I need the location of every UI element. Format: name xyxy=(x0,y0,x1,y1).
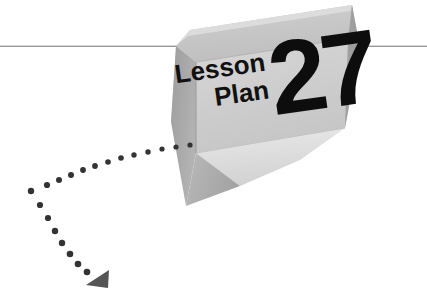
trail-dot xyxy=(187,142,192,147)
trail-dot xyxy=(52,228,58,234)
trail-dot xyxy=(131,152,136,157)
lesson-number-wrap: 27 xyxy=(261,7,383,137)
trail-dot xyxy=(59,240,65,246)
trail-dot xyxy=(105,159,111,165)
trail-dot xyxy=(84,269,91,276)
trail-dot xyxy=(75,261,82,268)
lesson-plan-header-graphic: Lesson Plan 27 xyxy=(0,0,427,293)
trail-dot xyxy=(56,177,62,183)
trail-dot xyxy=(44,182,50,188)
trail-dot xyxy=(173,144,178,149)
trail-dot-vertex xyxy=(28,188,34,194)
dotted-path xyxy=(28,142,193,288)
trail-dot xyxy=(45,215,51,221)
horizontal-rule-left xyxy=(0,46,182,47)
trail-dot xyxy=(37,202,43,208)
trail-dot xyxy=(118,155,124,161)
trail-dot xyxy=(68,172,74,178)
trail-dot xyxy=(92,163,98,169)
trail-dot xyxy=(80,167,86,173)
artwork-canvas: Lesson Plan 27 xyxy=(0,0,427,293)
trail-dot xyxy=(145,149,150,154)
lesson-number: 27 xyxy=(261,7,383,137)
trail-dot xyxy=(67,251,74,258)
trail-dot xyxy=(159,146,164,151)
